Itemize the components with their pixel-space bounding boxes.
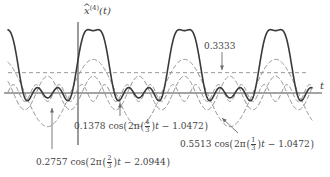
harmonic-c-amplitude: 0.5513 bbox=[180, 139, 212, 149]
harmonic-c-twopi: 2π bbox=[234, 139, 246, 149]
harmonic-a-frac-open: ( bbox=[102, 157, 106, 169]
harmonic-b-amplitude: 0.1378 bbox=[74, 121, 106, 131]
harmonic-a-leader bbox=[50, 108, 54, 149]
harmonic-b-frac-open: ( bbox=[140, 121, 144, 133]
harmonic-c-minus: − bbox=[268, 139, 276, 149]
harmonic-a-label: 0.2757 cos(2π(23)t − 2.0944) bbox=[36, 155, 170, 170]
harmonic-c-leader bbox=[222, 118, 238, 133]
harmonic-a-phase: 2.0944 bbox=[134, 157, 166, 167]
y-axis-superscript: (4) bbox=[90, 4, 99, 12]
harmonic-a-variable: t bbox=[117, 157, 121, 167]
harmonic-b-phase: 1.0472 bbox=[172, 121, 204, 131]
harmonic-c-phase: 1.0472 bbox=[278, 139, 310, 149]
harmonic-c-frequency-fraction: 13 bbox=[251, 137, 257, 152]
harmonic-b-frequency-fraction: 43 bbox=[145, 119, 151, 134]
harmonic-c-cos: cos bbox=[214, 139, 229, 149]
harmonic-a-open-paren: ( bbox=[86, 157, 90, 169]
harmonic-b-close-paren: ) bbox=[204, 121, 208, 133]
harmonic-a-arrowhead bbox=[50, 108, 54, 113]
y-axis-label: ^x(4)(t) bbox=[84, 6, 111, 16]
y-axis-argument: (t) bbox=[99, 5, 111, 16]
harmonic-a-close-paren: ) bbox=[166, 157, 170, 169]
harmonic-a-cos: cos bbox=[70, 157, 85, 167]
harmonic-b-cos: cos bbox=[108, 121, 123, 131]
y-axis-symbol: ^x bbox=[84, 6, 90, 16]
dc-leader bbox=[220, 52, 224, 70]
harmonic-b-frac-close: ) bbox=[151, 121, 155, 133]
harmonic-b-minus: − bbox=[162, 121, 170, 131]
harmonic-c-label: 0.5513 cos(2π(13)t − 1.0472) bbox=[180, 137, 314, 152]
harmonic-b-variable: t bbox=[155, 121, 159, 131]
harmonic-b-open-paren: ( bbox=[124, 121, 128, 133]
harmonic-b-label: 0.1378 cos(2π(43)t − 1.0472) bbox=[74, 119, 208, 134]
harmonic-a-amplitude: 0.2757 bbox=[36, 157, 68, 167]
dc-value-label: 0.3333 bbox=[204, 42, 236, 51]
harmonic-a-frac-close: ) bbox=[113, 157, 117, 169]
x-axis-label: t bbox=[320, 81, 324, 91]
dc-arrowhead bbox=[220, 65, 224, 70]
harmonic-c-variable: t bbox=[261, 139, 265, 149]
harmonic-b-twopi: 2π bbox=[128, 121, 140, 131]
harmonic-c-close-paren: ) bbox=[310, 139, 314, 151]
harmonic-c-frac-close: ) bbox=[257, 139, 261, 151]
hat-accent: ^ bbox=[83, 2, 91, 12]
harmonic-a-minus: − bbox=[124, 157, 132, 167]
harmonic-c-frac-den: 3 bbox=[251, 145, 257, 152]
harmonic-a-twopi: 2π bbox=[90, 157, 102, 167]
harmonic-c-open-paren: ( bbox=[230, 139, 234, 151]
harmonic-a-frequency-fraction: 23 bbox=[107, 155, 113, 170]
harmonic-c-frac-open: ( bbox=[246, 139, 250, 151]
harmonic-a-frac-den: 3 bbox=[107, 163, 113, 170]
figure-container: ^x(4)(t) t 0.3333 0.2757 cos(2π(23)t − 2… bbox=[0, 0, 330, 177]
harmonic-b-frac-den: 3 bbox=[145, 127, 151, 134]
